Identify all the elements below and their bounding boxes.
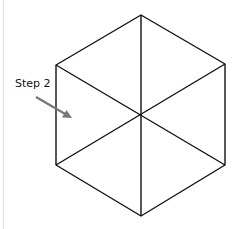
diagram-canvas: Step 2 bbox=[0, 0, 236, 229]
hexagon-diagram bbox=[0, 0, 236, 229]
step-label: Step 2 bbox=[15, 77, 51, 90]
arrow-icon bbox=[36, 97, 72, 118]
